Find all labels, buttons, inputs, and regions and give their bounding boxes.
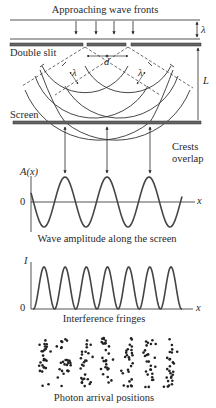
photon-dot — [142, 351, 145, 354]
photon-dot — [49, 350, 52, 353]
photon-dot — [87, 378, 90, 381]
photon-dot — [168, 384, 171, 387]
photon-dot — [130, 384, 133, 387]
photon-dot — [172, 361, 175, 364]
photon-dot — [81, 353, 84, 356]
photon-dot — [144, 386, 147, 389]
photon-dot — [84, 351, 87, 354]
photon-dot — [123, 384, 126, 387]
photon-dot — [45, 343, 48, 346]
photon-dot — [130, 349, 133, 352]
photon-dot — [151, 372, 154, 375]
photon-dot — [60, 347, 63, 350]
crests-overlap-label-2: overlap — [172, 154, 204, 165]
lambda-right-label: λ — [138, 68, 143, 79]
photon-dot — [64, 359, 67, 362]
photon-dot — [62, 361, 65, 364]
amplitude-caption: Wave amplitude along the screen — [37, 234, 176, 245]
amplitude-x-label: x — [197, 196, 202, 207]
photon-dot — [131, 354, 134, 357]
photon-dot — [168, 358, 171, 361]
screen-bar — [13, 121, 201, 124]
photon-dot — [151, 339, 154, 342]
photon-dot — [176, 351, 179, 354]
lambda-top-label: λ — [201, 25, 206, 36]
photon-dot — [131, 362, 134, 365]
photon-dot — [169, 372, 172, 375]
photon-dot — [145, 344, 148, 347]
photon-dot — [105, 359, 108, 362]
photon-dot — [101, 337, 104, 340]
photon-dot — [39, 370, 42, 373]
photon-dot — [45, 360, 48, 363]
photon-dot — [87, 352, 90, 355]
photon-dot — [148, 360, 151, 363]
photon-dot — [83, 377, 86, 380]
photon-dot — [154, 366, 157, 369]
photon-dot — [102, 373, 105, 376]
photon-dot — [105, 363, 108, 366]
L-label: L — [203, 76, 209, 87]
photon-dot — [172, 373, 175, 376]
photon-dot — [151, 376, 154, 379]
photon-dot — [81, 381, 84, 384]
photon-dot — [144, 349, 147, 352]
photon-dot — [106, 376, 109, 379]
intensity-zero-label: 0 — [20, 303, 25, 314]
photon-dot — [127, 370, 130, 373]
photon-dot — [127, 385, 130, 388]
photon-dot — [154, 357, 157, 360]
photon-dot — [69, 364, 72, 367]
photon-dot — [145, 370, 148, 373]
photon-dot — [58, 368, 61, 371]
photon-dot — [146, 373, 149, 376]
photon-dot — [42, 354, 45, 357]
approaching-wave-fronts-label: Approaching wave fronts — [52, 5, 159, 16]
photon-dot — [62, 373, 65, 376]
photon-dot — [171, 348, 174, 351]
photon-dot — [42, 350, 45, 353]
photon-dot — [131, 338, 134, 341]
photon-dot — [39, 361, 42, 364]
photon-dot — [151, 379, 154, 382]
photon-dot — [38, 344, 41, 347]
photon-dot — [167, 380, 170, 383]
photon-dot — [101, 357, 104, 360]
photon-dot — [61, 370, 64, 373]
photon-dot — [81, 351, 84, 354]
crest-arrows — [65, 127, 150, 173]
photon-dot — [41, 385, 44, 388]
photon-dot — [79, 367, 82, 370]
photon-dot — [66, 339, 69, 342]
photon-dot — [63, 363, 66, 366]
photon-dot — [150, 364, 153, 367]
photon-dot — [124, 356, 127, 359]
photon-dot — [171, 380, 174, 383]
photon-dot — [61, 341, 64, 344]
photon-dot — [86, 346, 89, 349]
screen-label: Screen — [10, 110, 39, 121]
photon-dot — [150, 369, 153, 372]
photon-dot — [172, 371, 175, 374]
photon-dot — [44, 339, 47, 342]
intensity-x-label: x — [196, 303, 201, 314]
photon-dot — [47, 383, 50, 386]
photon-dot — [128, 380, 131, 383]
photon-dot — [45, 348, 48, 351]
photon-dot — [82, 365, 85, 368]
photon-dot — [147, 353, 150, 356]
lambda-left-label: λ — [72, 68, 77, 79]
photon-dot — [86, 339, 89, 342]
photon-dot — [107, 381, 110, 384]
photon-dot — [100, 368, 103, 371]
photon-dot — [112, 358, 115, 361]
circular-wavefronts — [25, 62, 190, 140]
photon-dot — [91, 356, 94, 359]
photon-dot — [85, 343, 88, 346]
photon-dot — [66, 369, 69, 372]
photon-dot — [163, 385, 166, 388]
photon-dot — [171, 383, 174, 386]
photon-dot — [168, 370, 171, 373]
photon-dot — [84, 359, 87, 362]
photon-dot — [166, 368, 169, 371]
